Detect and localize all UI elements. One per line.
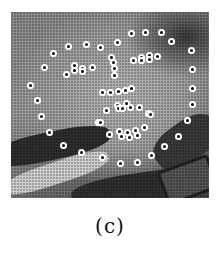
- landmark-point-jawline: [161, 143, 168, 150]
- landmark-point-right-brow: [168, 38, 175, 45]
- landmark-point-jawline: [38, 113, 45, 120]
- landmark-point-nose-bridge: [111, 72, 118, 79]
- landmark-point-right-eye: [154, 53, 161, 60]
- landmark-point-lower-lip: [126, 134, 133, 141]
- figure-caption: (c): [0, 214, 220, 238]
- landmark-point-left-eye: [89, 64, 96, 71]
- landmark-point-right-brow: [114, 39, 121, 46]
- landmark-point-jawline: [117, 160, 124, 167]
- landmark-point-lower-lip: [141, 124, 148, 131]
- landmark-point-lower-lip: [134, 132, 141, 139]
- landmark-point-upper-lip: [103, 107, 110, 114]
- landmark-point-upper-lip: [127, 104, 134, 111]
- landmark-point-right-eye: [130, 57, 137, 64]
- landmark-point-jawline: [189, 101, 196, 108]
- landmark-point-left-eye: [79, 68, 86, 75]
- landmark-point-jawline: [78, 149, 85, 156]
- landmark-point-jawline: [175, 133, 182, 140]
- landmark-point-jawline: [60, 142, 67, 149]
- landmark-point-nose-base: [107, 89, 114, 96]
- landmark-point-jawline: [189, 66, 196, 73]
- landmark-point-left-brow: [50, 50, 57, 57]
- landmark-point-lower-lip: [106, 131, 113, 138]
- landmark-point-jawline: [189, 85, 196, 92]
- landmark-point-mouth-corners: [97, 119, 104, 126]
- landmark-point-left-eye: [63, 71, 70, 78]
- landmark-point-jawline: [34, 97, 41, 104]
- landmark-point-jawline: [148, 152, 155, 159]
- landmark-point-left-eye: [71, 62, 78, 69]
- landmark-point-jawline: [99, 154, 106, 161]
- landmark-point-right-eye: [138, 57, 145, 64]
- landmark-point-right-eye: [146, 56, 153, 63]
- landmark-point-jawline: [184, 117, 191, 124]
- landmark-point-jawline: [27, 82, 34, 89]
- landmark-point-right-brow: [128, 30, 135, 37]
- landmark-point-upper-lip: [136, 104, 143, 111]
- landmark-point-nose-base: [99, 89, 106, 96]
- landmark-point-right-brow: [158, 29, 165, 36]
- landmark-point-jawline: [188, 47, 195, 54]
- landmark-point-left-brow: [65, 43, 72, 50]
- landmark-point-left-brow: [41, 64, 48, 71]
- landmark-point-nose-base: [115, 88, 122, 95]
- landmark-point-nose-base: [128, 85, 135, 92]
- landmark-point-nose-bridge: [111, 65, 118, 72]
- landmark-point-mouth-corners: [147, 111, 154, 118]
- landmark-point-left-brow: [83, 41, 90, 48]
- landmark-point-left-brow: [97, 44, 104, 51]
- landmark-point-jawline: [134, 159, 141, 166]
- figure-panel: (c): [0, 0, 220, 254]
- landmark-point-jawline: [46, 129, 53, 136]
- landmark-point-right-brow: [142, 29, 149, 36]
